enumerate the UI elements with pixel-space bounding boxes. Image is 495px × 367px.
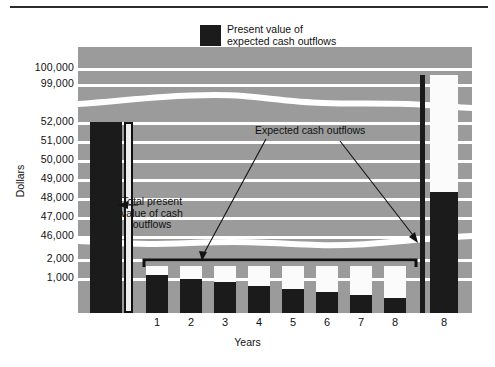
y-tick-label: 51,000 [12,135,74,146]
x-tick-label: 8 [433,316,455,328]
x-tick-label: 6 [316,316,338,328]
legend-label-present-value: Present value of expected cash outflows [227,24,336,47]
chart-legend: Present value of expected cash outflows [200,24,336,47]
y-tick-label: 52,000 [12,116,74,127]
pv-bar-year-1 [146,275,168,313]
x-tick-label: 7 [350,316,372,328]
x-axis-title: Years [0,336,495,348]
gridline [78,84,472,87]
legend-swatch-present-value [200,25,221,46]
chart-plot-area [78,47,472,313]
pv-bar-year-4 [248,286,270,313]
annotation-total-present-value: Total present value of cash outflows [110,196,194,231]
pv-bar-year-2 [180,279,202,313]
y-tick-label: 2,000 [12,253,74,264]
y-tick-label: 47,000 [12,211,74,222]
pv-bar-year-3 [214,282,236,313]
pv-bar-year-5 [282,289,304,313]
gridline [78,68,472,71]
y-tick-label: 46,000 [12,230,74,241]
x-axis-tick-labels: 1 2 3 4 5 6 7 8 8 [78,316,472,332]
pv-bar-year-6 [316,292,338,313]
annotation-expected-cash-outflows: Expected cash outflows [255,125,389,137]
x-tick-label: 5 [282,316,304,328]
gridline [78,278,472,281]
axis-break-band-upper [78,91,472,113]
pv-bar-year-8 [384,298,406,313]
y-axis-title: Dollars [14,151,26,211]
y-tick-label: 100,000 [12,62,74,73]
y-tick-label: 1,000 [12,272,74,283]
x-tick-label: 4 [248,316,270,328]
y-tick-label: 99,000 [12,78,74,89]
pv-bar-year-7 [350,295,372,313]
x-tick-label: 2 [180,316,202,328]
x-tick-label: 3 [214,316,236,328]
x-tick-label: 1 [146,316,168,328]
x-tick-label: 8 [384,316,406,328]
top-horizontal-rule [10,6,488,8]
